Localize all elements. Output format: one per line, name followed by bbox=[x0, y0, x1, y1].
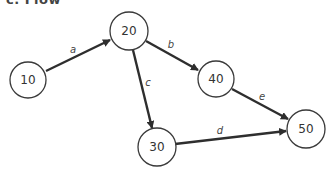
edge-e: e bbox=[232, 89, 288, 119]
node-10: 10 bbox=[10, 62, 46, 98]
node-label-30: 30 bbox=[149, 140, 164, 154]
edge-a: a bbox=[46, 40, 110, 71]
edge-label-e: e bbox=[259, 91, 265, 102]
node-50: 50 bbox=[287, 110, 325, 148]
node-30: 30 bbox=[138, 128, 176, 166]
node-label-10: 10 bbox=[20, 73, 35, 87]
node-label-40: 40 bbox=[208, 72, 223, 86]
node-label-20: 20 bbox=[121, 24, 136, 38]
node-40: 40 bbox=[198, 61, 234, 97]
flow-diagram: a b c d e 10 20 40 30 50 bbox=[0, 0, 333, 174]
node-20: 20 bbox=[110, 12, 148, 50]
edge-label-d: d bbox=[217, 125, 224, 136]
edge-label-b: b bbox=[168, 39, 174, 50]
edge-b: b bbox=[146, 39, 198, 71]
edge-c: c bbox=[133, 50, 152, 128]
edge-label-c: c bbox=[145, 77, 151, 88]
edge-label-a: a bbox=[70, 44, 76, 55]
edge-d: d bbox=[175, 125, 286, 145]
node-label-50: 50 bbox=[298, 122, 313, 136]
